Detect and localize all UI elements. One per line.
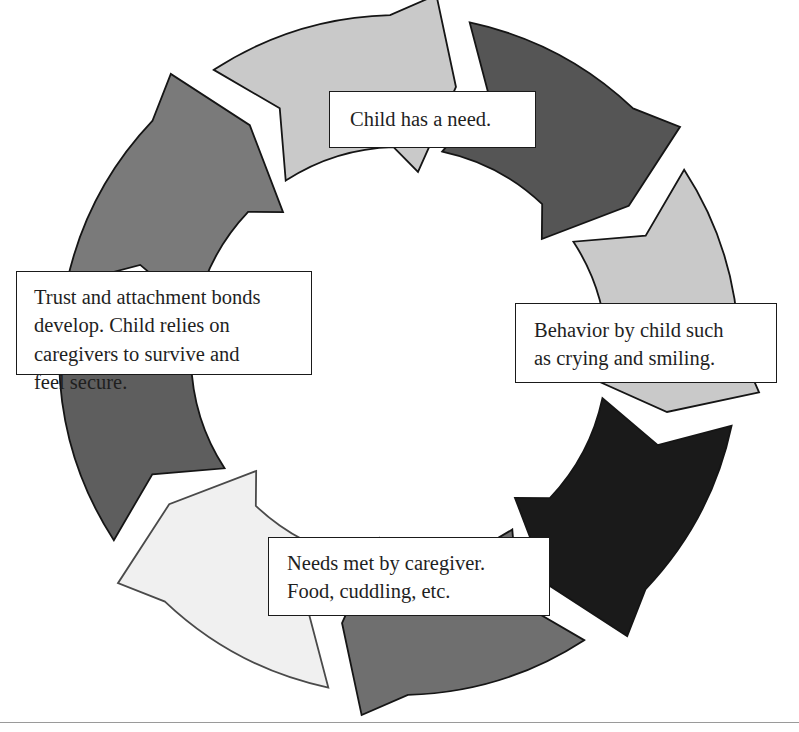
bottom-divider (0, 722, 799, 723)
diagram-page: Child has a need. Behavior by child such… (0, 0, 799, 732)
label-behavior-by-child: Behavior by child such as crying and smi… (515, 303, 777, 383)
label-needs-met-by-caregiver: Needs met by caregiver. Food, cuddling, … (268, 537, 550, 616)
label-trust-and-attachment: Trust and attachment bonds develop. Chil… (16, 271, 312, 375)
label-child-has-a-need: Child has a need. (329, 91, 536, 148)
